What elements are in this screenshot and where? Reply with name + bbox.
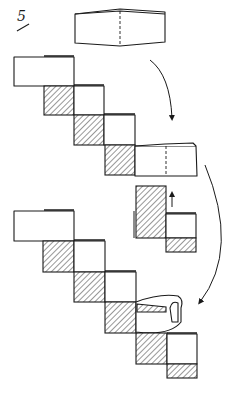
- unit-module: [75, 9, 165, 46]
- arrow-module-to-staircase: [150, 60, 172, 118]
- staircase-assembly-top: [14, 56, 197, 176]
- insertion-detail: [134, 186, 196, 252]
- folding-diagram: [0, 0, 232, 393]
- arrow-curve-to-bottom: [200, 165, 221, 302]
